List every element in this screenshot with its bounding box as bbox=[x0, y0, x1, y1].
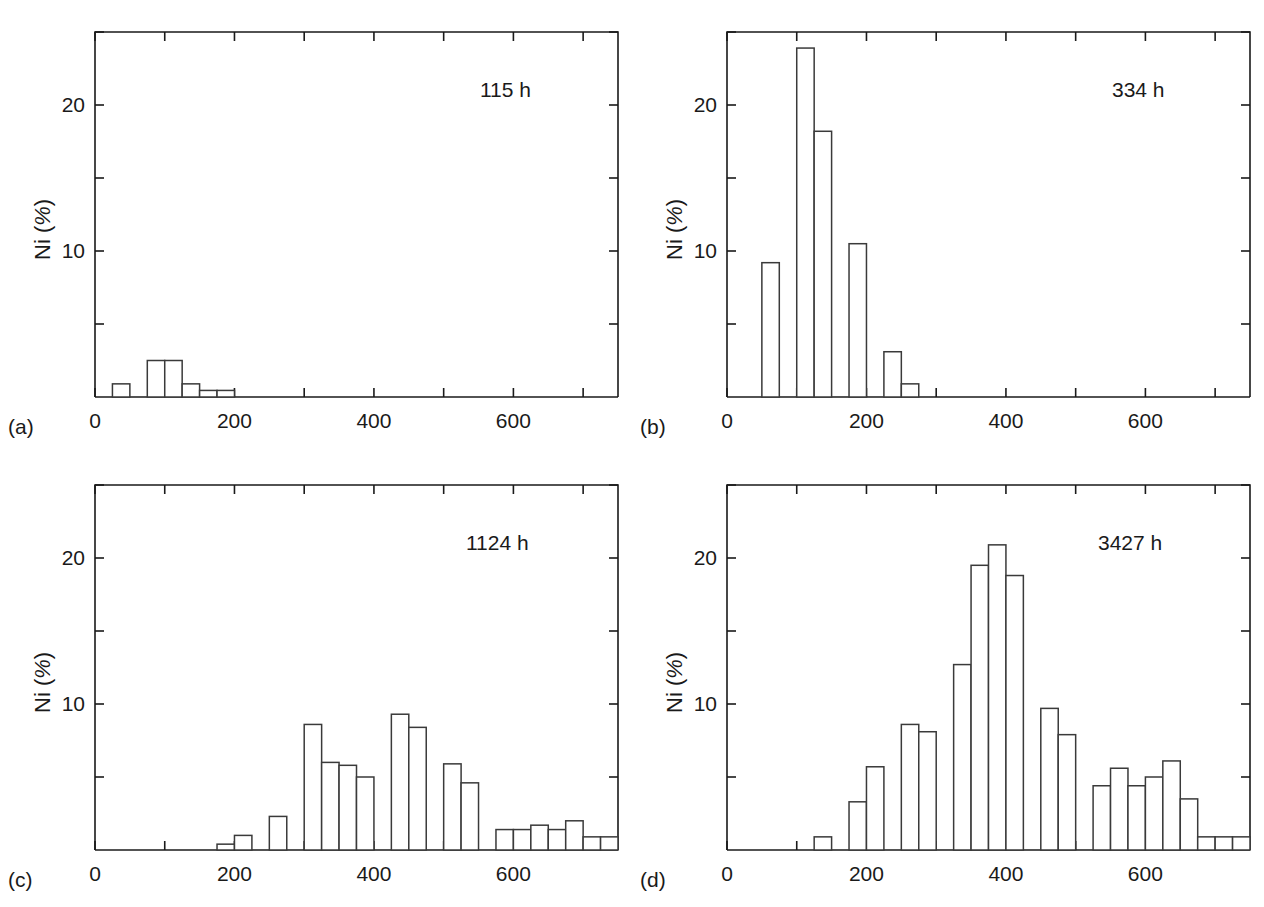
histogram-bar bbox=[147, 361, 164, 398]
x-tick-label: 0 bbox=[721, 409, 733, 433]
y-axis-title-percent: % bbox=[662, 206, 687, 226]
time-annotation-b: 334 h bbox=[1112, 78, 1165, 102]
y-axis-title-prefix: Ni ( bbox=[662, 678, 687, 712]
histogram-bar bbox=[901, 724, 918, 850]
y-axis-title-suffix: ) bbox=[30, 198, 55, 205]
histogram-bar bbox=[901, 384, 918, 397]
panel-tag-c: (c) bbox=[8, 868, 33, 892]
panel-c: (c) 1124 h 02004006001020Ni (%) bbox=[0, 453, 632, 906]
histogram-bar bbox=[583, 837, 600, 850]
histogram-bar bbox=[849, 802, 866, 850]
histogram-bar bbox=[919, 732, 936, 850]
panel-d: (d) 3427 h 02004006001020Ni (%) bbox=[632, 453, 1264, 906]
x-tick-label: 200 bbox=[849, 862, 884, 886]
histogram-bar bbox=[461, 783, 478, 850]
y-tick-label: 20 bbox=[45, 93, 85, 117]
y-axis-title-prefix: Ni ( bbox=[30, 225, 55, 259]
histogram-bar bbox=[989, 545, 1006, 850]
x-tick-label: 0 bbox=[89, 409, 101, 433]
y-axis-title-suffix: ) bbox=[662, 198, 687, 205]
histogram-bar bbox=[531, 825, 548, 850]
x-tick-label: 400 bbox=[988, 409, 1023, 433]
histogram-bar bbox=[1233, 837, 1250, 850]
histogram-bar bbox=[339, 765, 356, 850]
histogram-bar bbox=[1006, 576, 1023, 850]
x-tick-label: 600 bbox=[1128, 409, 1163, 433]
histogram-bar bbox=[322, 762, 339, 850]
histogram-bar bbox=[1093, 786, 1110, 850]
histogram-bar bbox=[1198, 837, 1215, 850]
histogram-bar bbox=[217, 844, 234, 850]
histogram-bar bbox=[762, 263, 779, 397]
x-tick-label: 600 bbox=[496, 409, 531, 433]
histogram-bar bbox=[1111, 768, 1128, 850]
histogram-bar bbox=[357, 777, 374, 850]
histogram-bar bbox=[971, 565, 988, 850]
histogram-bar bbox=[1145, 777, 1162, 850]
histogram-bar bbox=[496, 830, 513, 850]
histogram-bar bbox=[1058, 735, 1075, 850]
x-tick-label: 0 bbox=[89, 862, 101, 886]
x-tick-label: 0 bbox=[721, 862, 733, 886]
panel-tag-b: (b) bbox=[640, 415, 666, 439]
histogram-bar bbox=[112, 384, 129, 397]
y-tick-label: 20 bbox=[677, 93, 717, 117]
histogram-bar bbox=[200, 390, 217, 397]
y-axis-title-percent: % bbox=[30, 206, 55, 226]
histogram-bar bbox=[217, 390, 234, 397]
x-tick-label: 200 bbox=[849, 409, 884, 433]
x-tick-label: 400 bbox=[988, 862, 1023, 886]
histogram-bar bbox=[391, 714, 408, 850]
histogram-bar bbox=[601, 837, 618, 850]
y-axis-title-prefix: Ni ( bbox=[30, 678, 55, 712]
y-axis-title: Ni (%) bbox=[30, 198, 56, 259]
histogram-bar bbox=[182, 384, 199, 397]
y-tick-label: 20 bbox=[677, 546, 717, 570]
time-annotation-a: 115 h bbox=[480, 78, 531, 102]
x-tick-label: 400 bbox=[356, 409, 391, 433]
y-axis-title: Ni (%) bbox=[30, 651, 56, 712]
histogram-bar bbox=[304, 724, 321, 850]
histogram-bar bbox=[409, 727, 426, 850]
histogram-bar bbox=[1128, 786, 1145, 850]
histogram-bar bbox=[269, 816, 286, 850]
x-tick-label: 600 bbox=[1128, 862, 1163, 886]
histogram-bar bbox=[884, 352, 901, 397]
histogram-bar bbox=[866, 767, 883, 850]
panel-tag-d: (d) bbox=[640, 868, 666, 892]
panel-tag-a: (a) bbox=[8, 415, 34, 439]
histogram-bar bbox=[165, 361, 182, 398]
histogram-bar bbox=[1163, 761, 1180, 850]
x-tick-label: 600 bbox=[496, 862, 531, 886]
histogram-bar bbox=[797, 48, 814, 397]
y-axis-title: Ni (%) bbox=[662, 651, 688, 712]
histogram-bar bbox=[513, 830, 530, 850]
y-axis-title-prefix: Ni ( bbox=[662, 225, 687, 259]
y-axis-title-percent: % bbox=[30, 659, 55, 679]
histogram-bar bbox=[1215, 837, 1232, 850]
plot-area-d bbox=[632, 453, 1264, 906]
histogram-bar bbox=[1180, 799, 1197, 850]
y-tick-label: 20 bbox=[45, 546, 85, 570]
histogram-bar bbox=[444, 764, 461, 850]
histogram-bar bbox=[566, 821, 583, 850]
x-tick-label: 200 bbox=[217, 409, 252, 433]
y-axis-title-suffix: ) bbox=[662, 651, 687, 658]
histogram-bar bbox=[548, 830, 565, 850]
plot-area-a bbox=[0, 0, 632, 453]
plot-area-b bbox=[632, 0, 1264, 453]
panel-b: (b) 334 h 02004006001020Ni (%) bbox=[632, 0, 1264, 453]
y-axis-title: Ni (%) bbox=[662, 198, 688, 259]
x-tick-label: 200 bbox=[217, 862, 252, 886]
histogram-bar bbox=[814, 837, 831, 850]
y-axis-title-suffix: ) bbox=[30, 651, 55, 658]
histogram-bar bbox=[1041, 708, 1058, 850]
histogram-bar bbox=[814, 131, 831, 397]
x-tick-label: 400 bbox=[356, 862, 391, 886]
time-annotation-d: 3427 h bbox=[1098, 531, 1162, 555]
histogram-bar bbox=[954, 665, 971, 850]
time-annotation-c: 1124 h bbox=[466, 531, 529, 555]
histogram-bar bbox=[849, 244, 866, 397]
histogram-bar bbox=[234, 835, 251, 850]
panel-a: (a) 115 h 02004006001020Ni (%) bbox=[0, 0, 632, 453]
